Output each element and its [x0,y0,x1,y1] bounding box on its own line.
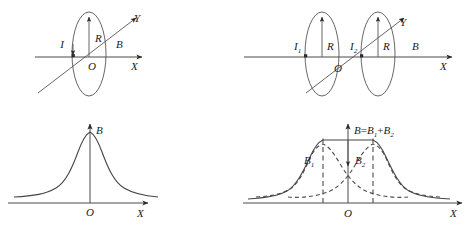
label-axis-b-bottom-left: B [96,124,103,136]
label-origin-bottom-left: O [86,206,94,218]
label-radius-top-left: R [94,32,102,44]
label-axis-x-bottom-right: X [449,207,458,219]
current-node-marker-1 [304,54,307,57]
label-field-top-left: B [116,38,123,50]
label-radius-right-top-right: R [382,40,390,52]
label-axis-x-top-left: X [130,60,139,72]
label-origin-top-left: O [88,60,96,72]
label-origin-top-right: O [334,62,342,74]
label-axis-x-top-right: X [439,60,448,72]
label-radius-left-top-right: R [326,40,334,52]
current-node-marker [72,54,75,57]
figure-background [0,0,469,227]
label-field-top-right: B [412,40,419,52]
current-node-marker-2 [360,54,363,57]
physics-figure: I R B X Y O I1 I2 R R B X Y O B O X [0,0,469,227]
label-axis-x-bottom-left: X [136,207,145,219]
label-origin-bottom-right: O [344,207,352,219]
